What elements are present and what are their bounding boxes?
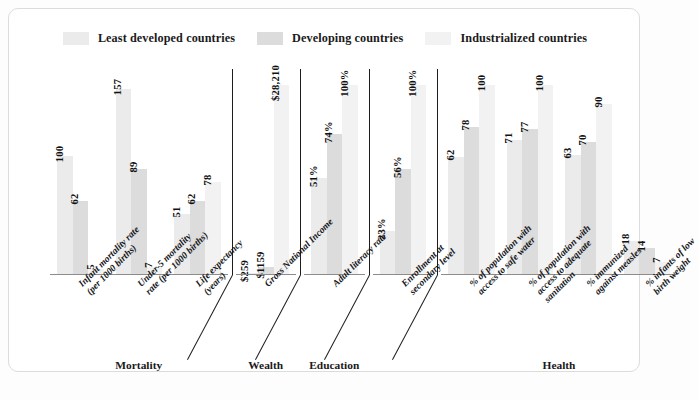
legend-swatch-icon <box>257 32 283 45</box>
bar-group-item: $28,210 <box>274 59 290 275</box>
category-labels: Infant mortality rate(per 1000 births)Un… <box>57 279 633 359</box>
bar-value-label: 70 <box>577 135 588 146</box>
bar-group-item: 100% <box>342 59 358 275</box>
chart-frame: Least developed countriesDeveloping coun… <box>8 8 640 372</box>
bar-value-label: 51% <box>308 165 319 187</box>
legend-item-label: Industrialized countries <box>460 31 587 46</box>
bar-value-label: 100 <box>476 75 487 92</box>
supergroup-title: Mortality <box>115 359 162 371</box>
bar-group-item: 78 <box>205 59 221 275</box>
bar[interactable]: 56% <box>395 169 411 275</box>
bar-cluster: 6278100 <box>448 59 495 275</box>
bar-value-label: 100 <box>54 146 65 163</box>
legend-item-label: Developing countries <box>292 31 403 46</box>
bar[interactable]: $28,210 <box>274 85 290 275</box>
bar-group-item: $259 <box>243 59 259 275</box>
bar[interactable]: 74% <box>327 134 343 275</box>
bar-value-label: 100% <box>407 69 418 96</box>
bar-group-item: 78 <box>464 59 480 275</box>
bar-group-item: 100 <box>57 59 73 275</box>
bar-group-item: 7 <box>147 59 163 275</box>
bar-value-label: 63 <box>562 148 573 159</box>
bar-group-item: 7 <box>655 59 671 275</box>
bar-value-label: 71 <box>503 133 514 144</box>
bar-value-label: 62 <box>186 194 197 205</box>
bar-value-label: 77 <box>519 121 530 132</box>
supergroup-title: Wealth <box>248 359 283 371</box>
bar[interactable]: 100 <box>57 156 73 275</box>
bar-value-label: 62 <box>445 150 456 161</box>
bar[interactable]: 100% <box>411 85 427 275</box>
legend-swatch-icon <box>63 32 89 45</box>
bar-group-item: 5 <box>88 59 104 275</box>
bar-value-label: $28,210 <box>270 65 281 101</box>
legend-developing[interactable]: Developing countries <box>257 31 403 46</box>
bar-group-item: 100 <box>479 59 495 275</box>
bar-value-label: 74% <box>323 122 334 144</box>
bar-cluster: 23%56%100% <box>380 59 427 275</box>
bar-group-item: 62 <box>448 59 464 275</box>
bar[interactable]: 100% <box>342 85 358 275</box>
bar-value-label: 51 <box>171 207 182 218</box>
bar-group-item: 100 <box>538 59 554 275</box>
bar-value-label: 157 <box>112 78 123 95</box>
bar[interactable]: 78 <box>464 127 480 275</box>
legend-industrialized[interactable]: Industrialized countries <box>425 31 587 46</box>
bar-value-label: 100% <box>339 69 350 96</box>
bar-value-label: 100 <box>534 75 545 92</box>
bar-group-item: 14 <box>639 59 655 275</box>
chart-legend: Least developed countriesDeveloping coun… <box>9 29 641 47</box>
bar-group-item: 62 <box>73 59 89 275</box>
bar-value-label: 62 <box>69 194 80 205</box>
bar[interactable]: 89 <box>131 169 147 275</box>
bar-value-label: 78 <box>202 175 213 186</box>
legend-item-label: Least developed countries <box>98 31 235 46</box>
supergroup-titles: MortalityWealthEducationHealth <box>9 359 641 377</box>
bar-value-label: 89 <box>128 162 139 173</box>
bar[interactable]: 100 <box>538 85 554 275</box>
supergroup-title: Education <box>309 359 359 371</box>
bar[interactable]: 100 <box>479 85 495 275</box>
x-axis-line <box>236 274 297 275</box>
bar-cluster: $259$1159$28,210 <box>243 59 290 275</box>
bar-cluster: 51%74%100% <box>311 59 358 275</box>
legend-least-developed[interactable]: Least developed countries <box>63 31 235 46</box>
bar-group-item: 100% <box>411 59 427 275</box>
bar-cluster: 100625 <box>57 59 104 275</box>
bar-value-label: 78 <box>460 119 471 130</box>
supergroup-title: Health <box>543 359 576 371</box>
bar-value-label: 90 <box>593 97 604 108</box>
legend-swatch-icon <box>425 32 451 45</box>
bar-value-label: 56% <box>392 156 403 178</box>
